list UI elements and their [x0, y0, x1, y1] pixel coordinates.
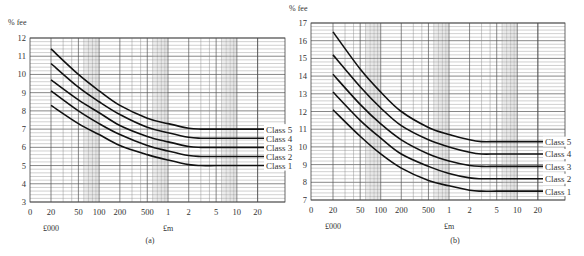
- y-tick-label: 7: [303, 195, 307, 205]
- y-tick-label: 16: [299, 36, 308, 46]
- y-tick-label: 15: [299, 53, 308, 63]
- series-label: Class 4: [545, 149, 572, 159]
- y-tick-label: 17: [299, 18, 308, 28]
- panel-label: (a): [146, 236, 155, 245]
- y-tick-label: 11: [18, 51, 26, 61]
- x-tick-label: 0: [309, 205, 313, 215]
- series-label: Class 1: [266, 161, 292, 171]
- x-tick-label: 200: [113, 207, 126, 217]
- chart-panel-b: 7891011121314151617% fee0205010020050012…: [289, 4, 583, 245]
- x-tick-label: 10: [513, 205, 522, 215]
- x-tick-label: 10: [233, 207, 242, 217]
- y-tick-label: 7: [22, 124, 26, 134]
- grid: [311, 23, 565, 200]
- x-tick-label: 5: [214, 207, 218, 217]
- x-tick-label: 5: [495, 205, 499, 215]
- x-tick-label: 20: [534, 205, 543, 215]
- y-tick-label: 10: [299, 142, 308, 152]
- x-tick-label: 2: [467, 205, 471, 215]
- y-tick-label: 9: [303, 160, 307, 170]
- y-tick-label: 8: [22, 106, 26, 116]
- x-axis-label-thousands: £000: [43, 224, 59, 233]
- x-axis-label-millions: £m: [163, 224, 174, 233]
- x-tick-label: 2: [187, 207, 191, 217]
- grid: [30, 38, 285, 202]
- x-tick-label: 50: [74, 207, 83, 217]
- y-axis-label: % fee: [289, 4, 308, 13]
- x-tick-label: 500: [141, 207, 154, 217]
- x-tick-label: 20: [47, 207, 56, 217]
- chart-panel-a: 3456789101112% fee020501002005001251020£…: [8, 18, 303, 245]
- y-tick-label: 4: [22, 179, 27, 189]
- x-tick-label: 0: [28, 207, 32, 217]
- y-tick-label: 13: [299, 89, 308, 99]
- y-tick-label: 8: [303, 177, 307, 187]
- fee-charts: 3456789101112% fee020501002005001251020£…: [0, 0, 584, 256]
- x-tick-label: 20: [253, 207, 262, 217]
- x-tick-label: 1: [166, 207, 170, 217]
- x-axis-label-millions: £m: [444, 222, 455, 231]
- y-tick-label: 12: [18, 33, 27, 43]
- x-tick-label: 50: [356, 205, 365, 215]
- x-tick-label: 100: [93, 207, 106, 217]
- x-tick-label: 1: [447, 205, 451, 215]
- x-tick-label: 20: [329, 205, 338, 215]
- panel-label: (b): [450, 236, 460, 245]
- y-tick-label: 12: [299, 107, 308, 117]
- series-label: Class 5: [545, 137, 572, 147]
- y-tick-label: 10: [18, 69, 27, 79]
- y-tick-label: 11: [299, 124, 307, 134]
- x-tick-label: 100: [374, 205, 387, 215]
- x-axis-label-thousands: £000: [325, 222, 341, 231]
- series-label: Class 2: [545, 174, 571, 184]
- y-tick-label: 5: [22, 161, 26, 171]
- x-tick-label: 200: [395, 205, 408, 215]
- y-tick-label: 6: [22, 142, 26, 152]
- x-tick-label: 500: [422, 205, 435, 215]
- y-tick-label: 3: [22, 197, 26, 207]
- series-label: Class 1: [545, 187, 571, 197]
- y-tick-label: 14: [299, 71, 308, 81]
- y-tick-label: 9: [22, 88, 26, 98]
- series-label: Class 3: [545, 162, 572, 172]
- y-axis-label: % fee: [8, 18, 27, 27]
